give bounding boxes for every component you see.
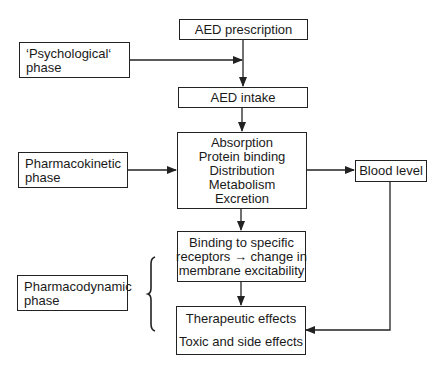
node-label: Blood level [359,164,423,178]
node-label-line: phase [24,294,127,308]
node-label-line: membrane excitability [179,264,305,278]
node-label-line: Therapeutic effects [186,312,296,326]
node-label-line: Absorption [211,136,273,150]
node-pharmacodynamic-phase: Pharmacodynamic phase [17,275,128,311]
node-aed-prescription: AED prescription [179,19,308,40]
node-label: AED prescription [195,23,293,37]
curly-brace [148,257,155,331]
flowchart: AED prescription ‘Psychological‘ phase A… [0,0,441,370]
node-label-line: Protein binding [199,150,286,164]
node-label-line: Toxic and side effects [179,335,303,349]
node-label-line: Pharmacodynamic [24,280,127,294]
node-label-line: Metabolism [209,178,275,192]
node-label-line: Pharmacokinetic [25,157,127,171]
node-label-line: ‘Psychological‘ [26,47,129,61]
node-label-line: Distribution [209,164,274,178]
node-label: AED intake [210,91,275,105]
node-psychological-phase: ‘Psychological‘ phase [19,42,130,78]
node-aed-intake: AED intake [178,87,308,108]
node-blood-level: Blood level [355,160,427,182]
node-label-line: Excretion [215,192,269,206]
node-label-line: phase [25,171,127,185]
arrow-blood-to-effects [306,182,390,330]
node-label-line: receptors → change in [176,250,307,264]
node-label-line: Binding to specific [189,236,294,250]
node-pharmacokinetic-processes: Absorption Protein binding Distribution … [177,132,307,209]
node-receptor-binding: Binding to specific receptors → change i… [177,231,306,282]
node-label-line: phase [26,61,129,75]
node-pharmacokinetic-phase: Pharmacokinetic phase [18,152,128,188]
node-effects: Therapeutic effects Toxic and side effec… [176,306,306,355]
